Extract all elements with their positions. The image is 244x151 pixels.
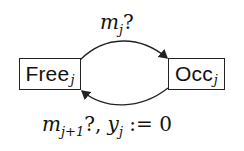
state-occ-name: Occ xyxy=(175,62,213,86)
state-free-subscript: j xyxy=(70,72,74,87)
transition-label-top: mj? xyxy=(100,10,134,37)
arrow-occ-to-free xyxy=(82,88,168,105)
arrow-free-to-occ xyxy=(80,41,167,60)
state-occ-subscript: j xyxy=(214,72,218,87)
state-free-name: Free xyxy=(25,62,69,86)
state-occ: Occj xyxy=(168,58,225,90)
state-free: Freej xyxy=(19,58,81,90)
transition-label-bottom: mj+1?, yj := 0 xyxy=(42,112,172,139)
